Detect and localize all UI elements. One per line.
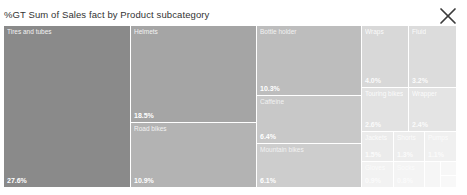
treemap-tile[interactable] bbox=[441, 162, 457, 176]
tile-value-label: 10.3% bbox=[260, 85, 280, 93]
treemap-tile[interactable] bbox=[441, 176, 457, 188]
tile-category-label: Mountain bikes bbox=[260, 146, 304, 154]
chart-title: %GT Sum of Sales fact by Product subcate… bbox=[4, 9, 209, 20]
tile-value-label: 6.1% bbox=[260, 177, 276, 185]
treemap-tile[interactable] bbox=[425, 162, 441, 188]
tile-value-label: 6.4% bbox=[260, 133, 276, 141]
treemap-tile[interactable]: Jackets1.5% bbox=[362, 132, 394, 162]
tile-value-label: 2.4% bbox=[412, 121, 428, 129]
tile-category-label: Shorts bbox=[397, 134, 416, 142]
tile-category-label: Pumps bbox=[428, 134, 448, 142]
tile-value-label: 1.3% bbox=[397, 151, 413, 159]
tile-value-label: 1.1% bbox=[428, 151, 444, 159]
tile-value-label: 10.9% bbox=[134, 177, 154, 185]
tile-category-label: Wraps bbox=[365, 28, 384, 36]
tile-value-label: 4.0% bbox=[365, 77, 381, 85]
tile-category-label: Jackets bbox=[365, 134, 387, 142]
treemap-tile[interactable]: Touring bikes2.6% bbox=[362, 88, 409, 132]
treemap-tile[interactable]: Wrapper2.4% bbox=[409, 88, 457, 132]
close-icon[interactable] bbox=[437, 5, 459, 27]
treemap-tile[interactable]: Pumps1.1% bbox=[425, 132, 457, 162]
tile-category-label: Helmets bbox=[134, 28, 158, 36]
treemap-tile[interactable]: Wraps4.0% bbox=[362, 26, 409, 88]
tile-category-label: Gloves bbox=[365, 164, 385, 172]
tile-category-label: Touring bikes bbox=[365, 90, 403, 98]
treemap-tile[interactable]: Gloves0.9% bbox=[362, 162, 394, 188]
tile-category-label: Fluid bbox=[412, 28, 426, 36]
treemap-plot-area: Tires and tubes27.6%Helmets18.5%Road bik… bbox=[4, 26, 457, 188]
treemap-tile[interactable]: Shorts1.3% bbox=[394, 132, 425, 162]
tile-category-label: Caffeine bbox=[260, 98, 284, 106]
tile-value-label: 0.9% bbox=[365, 177, 381, 185]
tile-category-label: Tires and tubes bbox=[7, 28, 52, 36]
treemap-tile[interactable]: Caffeine6.4% bbox=[257, 96, 362, 144]
tile-value-label: 0.8% bbox=[397, 177, 413, 185]
treemap-tile[interactable]: Fluid3.2% bbox=[409, 26, 457, 88]
treemap-tile[interactable]: Socks0.8% bbox=[394, 162, 425, 188]
tile-value-label: 3.2% bbox=[412, 77, 428, 85]
tile-value-label: 2.6% bbox=[365, 121, 381, 129]
tile-category-label: Bottle holder bbox=[260, 28, 297, 36]
treemap-visual-container: %GT Sum of Sales fact by Product subcate… bbox=[0, 0, 467, 195]
tile-category-label: Wrapper bbox=[412, 90, 437, 98]
tile-category-label: Socks bbox=[397, 164, 415, 172]
tile-value-label: 27.6% bbox=[7, 177, 27, 185]
tile-value-label: 18.5% bbox=[134, 112, 154, 120]
treemap-tile[interactable]: Bottle holder10.3% bbox=[257, 26, 362, 96]
tile-category-label: Road bikes bbox=[134, 125, 167, 133]
tile-value-label: 1.5% bbox=[365, 151, 381, 159]
treemap-tile[interactable]: Helmets18.5% bbox=[131, 26, 257, 123]
treemap-tile[interactable]: Mountain bikes6.1% bbox=[257, 144, 362, 188]
treemap-tile[interactable]: Tires and tubes27.6% bbox=[4, 26, 131, 188]
treemap-tile[interactable]: Road bikes10.9% bbox=[131, 123, 257, 188]
